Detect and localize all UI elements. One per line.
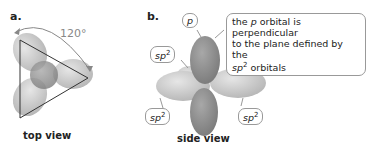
top-view-caption: top view [23, 130, 71, 141]
panel-a-label: a. [10, 10, 22, 23]
sp2-label-right: sp2 [238, 108, 263, 125]
callout-text: the p orbital is perpendicular to the pl… [226, 13, 366, 76]
p-orbital-label: p [182, 13, 198, 28]
sp2-label-left: sp2 [145, 108, 170, 125]
sp2-label-top: sp2 [150, 46, 175, 63]
angle-label: 120° [60, 27, 87, 40]
top-view-orbitals [6, 27, 93, 123]
side-view-caption: side view [177, 133, 230, 144]
panel-b-label: b. [147, 10, 159, 23]
